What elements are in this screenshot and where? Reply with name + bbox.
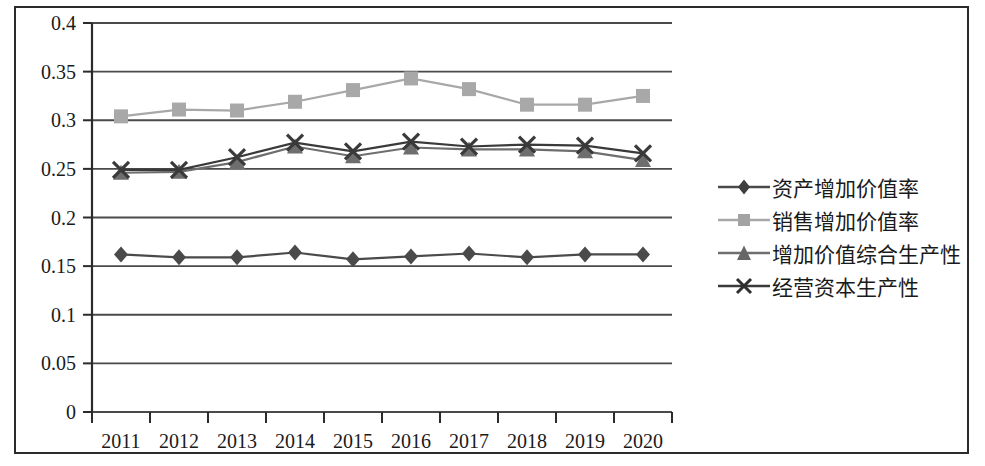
x-tick-label: 2020 (623, 430, 663, 452)
y-tick-label: 0.2 (51, 207, 76, 229)
data-point-diamond (636, 246, 650, 262)
data-point-diamond (346, 251, 360, 267)
data-point-diamond (404, 248, 418, 264)
legend-label-0: 资产增加价值率 (772, 172, 919, 202)
data-point-square (230, 104, 244, 118)
legend-label-1: 销售增加价值率 (772, 205, 919, 235)
x-tick-label: 2018 (507, 430, 547, 452)
data-point-square (172, 103, 186, 117)
y-tick-label: 0.4 (51, 12, 76, 34)
data-point-square (114, 109, 128, 123)
x-tick-label: 2015 (333, 430, 373, 452)
x-tick-label: 2017 (449, 430, 489, 452)
series-diamond (114, 245, 650, 268)
diamond-marker-icon (716, 175, 772, 199)
data-point-square (404, 71, 418, 85)
chart-legend: 资产增加价值率 销售增加价值率 增加价值综合生产性 (716, 170, 968, 302)
y-tick-label: 0.1 (51, 304, 76, 326)
legend-item-3[interactable]: 经营资本生产性 (716, 269, 968, 302)
x-tick-label: 2014 (275, 430, 315, 452)
y-tick-label: 0.25 (41, 158, 76, 180)
y-tick-label: 0 (66, 401, 76, 423)
x-tick-label: 2016 (391, 430, 431, 452)
data-point-square (520, 98, 534, 112)
y-tick-label: 0.35 (41, 61, 76, 83)
series-square (114, 71, 650, 123)
y-tick-label: 0.3 (51, 109, 76, 131)
series-cross (113, 134, 651, 178)
data-point-diamond (288, 245, 302, 261)
data-point-diamond (114, 246, 128, 262)
chart-figure: 0.40.350.30.250.20.150.10.05020112012201… (0, 0, 985, 466)
y-tick-label: 0.05 (41, 352, 76, 374)
data-point-diamond (578, 246, 592, 262)
x-tick-label: 2013 (217, 430, 257, 452)
legend-item-2[interactable]: 增加价值综合生产性 (716, 236, 968, 269)
x-tick-label: 2019 (565, 430, 605, 452)
data-point-diamond (520, 249, 534, 265)
triangle-marker-icon (716, 241, 772, 265)
legend-label-3: 经营资本生产性 (772, 271, 919, 301)
data-point-diamond (172, 249, 186, 265)
data-point-diamond (462, 245, 476, 261)
data-point-square (288, 95, 302, 109)
legend-item-1[interactable]: 销售增加价值率 (716, 203, 968, 236)
legend-item-0[interactable]: 资产增加价值率 (716, 170, 968, 203)
x-tick-label: 2011 (101, 430, 140, 452)
y-tick-label: 0.15 (41, 255, 76, 277)
data-point-square (578, 98, 592, 112)
series-line (121, 142, 643, 170)
cross-marker-icon (716, 274, 772, 298)
x-tick-label: 2012 (159, 430, 199, 452)
square-marker-icon (716, 208, 772, 232)
series-line (121, 253, 643, 260)
legend-label-2: 增加价值综合生产性 (772, 238, 961, 268)
data-point-square (462, 82, 476, 96)
data-point-diamond (230, 249, 244, 265)
data-point-square (636, 89, 650, 103)
series-line (121, 78, 643, 116)
data-point-square (346, 83, 360, 97)
